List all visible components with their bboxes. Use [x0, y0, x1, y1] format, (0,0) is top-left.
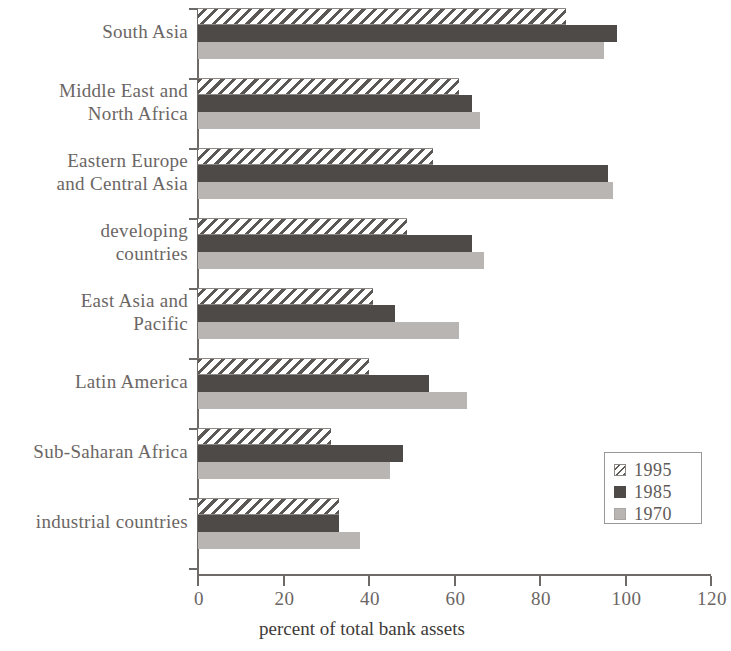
bar-1995-3 — [198, 218, 407, 235]
category-label: Sub-Saharan Africa — [0, 440, 188, 463]
bar-1985-1 — [198, 95, 472, 112]
bar-1970-0 — [198, 42, 604, 59]
category-label-line: developing — [0, 219, 188, 242]
bar-1985-3 — [198, 235, 472, 252]
bar-1995-6 — [198, 428, 331, 445]
x-axis-tick — [625, 576, 627, 586]
category-label-line: East Asia and — [0, 289, 188, 312]
category-axis-labels: South AsiaMiddle East andNorth AfricaEas… — [0, 0, 188, 600]
y-axis-tick — [189, 568, 198, 570]
bar-1985-4 — [198, 305, 395, 322]
category-label-line: Eastern Europe — [0, 149, 188, 172]
y-axis-tick — [189, 428, 198, 430]
category-label-line: Sub-Saharan Africa — [0, 440, 188, 463]
bar-1970-6 — [198, 462, 390, 479]
category-label-line: countries — [0, 242, 188, 265]
legend-label: 1985 — [634, 483, 672, 501]
x-axis-tick — [454, 576, 456, 586]
category-label-line: Latin America — [0, 370, 188, 393]
legend-entry-1985[interactable]: 1985 — [614, 482, 701, 502]
bar-1970-2 — [198, 182, 613, 199]
legend-swatch-icon — [614, 508, 626, 520]
bar-1995-0 — [198, 8, 566, 25]
y-axis-tick — [189, 218, 198, 220]
x-axis-tick-label: 100 — [597, 588, 657, 610]
x-axis-tick — [197, 576, 199, 586]
bar-1995-5 — [198, 358, 369, 375]
y-axis-tick — [189, 148, 198, 150]
x-axis-tick-label: 20 — [255, 588, 315, 610]
bar-1970-7 — [198, 532, 360, 549]
bar-1995-1 — [198, 78, 459, 95]
category-label: South Asia — [0, 20, 188, 43]
category-label: developingcountries — [0, 219, 188, 265]
category-label: East Asia andPacific — [0, 289, 188, 335]
category-label: industrial countries — [0, 510, 188, 533]
x-axis-tick — [539, 576, 541, 586]
y-axis-tick — [189, 358, 198, 360]
bar-1995-7 — [198, 498, 339, 515]
category-label-line: South Asia — [0, 20, 188, 43]
legend-swatch-icon — [614, 464, 626, 476]
category-label-line: and Central Asia — [0, 172, 188, 195]
legend-swatch-icon — [614, 486, 626, 498]
bar-1970-4 — [198, 322, 459, 339]
bar-1970-1 — [198, 112, 480, 129]
legend-entry-1995[interactable]: 1995 — [614, 460, 701, 480]
x-axis-tick — [368, 576, 370, 586]
x-axis-tick — [710, 576, 712, 586]
category-label: Latin America — [0, 370, 188, 393]
y-axis-tick — [189, 8, 198, 10]
bar-1970-3 — [198, 252, 484, 269]
x-axis-tick-label: 40 — [340, 588, 400, 610]
category-label-line: North Africa — [0, 102, 188, 125]
bar-1995-2 — [198, 148, 433, 165]
bar-1995-4 — [198, 288, 373, 305]
y-axis-tick — [189, 78, 198, 80]
bar-1985-6 — [198, 445, 403, 462]
category-label-line: Middle East and — [0, 79, 188, 102]
bar-1985-2 — [198, 165, 608, 182]
bar-1970-5 — [198, 392, 467, 409]
category-label-line: industrial countries — [0, 510, 188, 533]
x-axis-tick-label: 120 — [682, 588, 731, 610]
category-label-line: Pacific — [0, 312, 188, 335]
bar-1985-7 — [198, 515, 339, 532]
chart-legend: 199519851970 — [604, 452, 702, 524]
bar-1985-5 — [198, 375, 429, 392]
x-axis-tick-label: 0 — [169, 588, 229, 610]
bar-1985-0 — [198, 25, 617, 42]
x-axis-tick-label: 60 — [426, 588, 486, 610]
y-axis-tick — [189, 288, 198, 290]
category-label: Middle East andNorth Africa — [0, 79, 188, 125]
category-label: Eastern Europeand Central Asia — [0, 149, 188, 195]
x-axis-tick — [283, 576, 285, 586]
x-axis-tick-label: 80 — [511, 588, 571, 610]
legend-entry-1970[interactable]: 1970 — [614, 504, 701, 524]
x-axis-title: percent of total bank assets — [0, 618, 724, 640]
y-axis-tick — [189, 498, 198, 500]
legend-label: 1995 — [634, 461, 672, 479]
legend-label: 1970 — [634, 505, 672, 523]
